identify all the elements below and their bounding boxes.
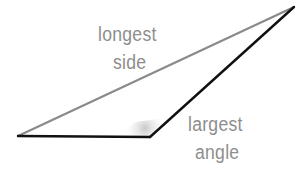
bottom-side bbox=[18, 136, 150, 137]
longest-side-label-line2: side bbox=[113, 52, 146, 72]
longest-side-label-line1: longest bbox=[98, 24, 157, 44]
largest-angle-label-line1: largest bbox=[188, 114, 243, 134]
largest-angle-label-line2: angle bbox=[195, 142, 239, 162]
triangle-diagram: longest side largest angle bbox=[0, 0, 306, 174]
largest-angle-shading bbox=[118, 118, 165, 137]
